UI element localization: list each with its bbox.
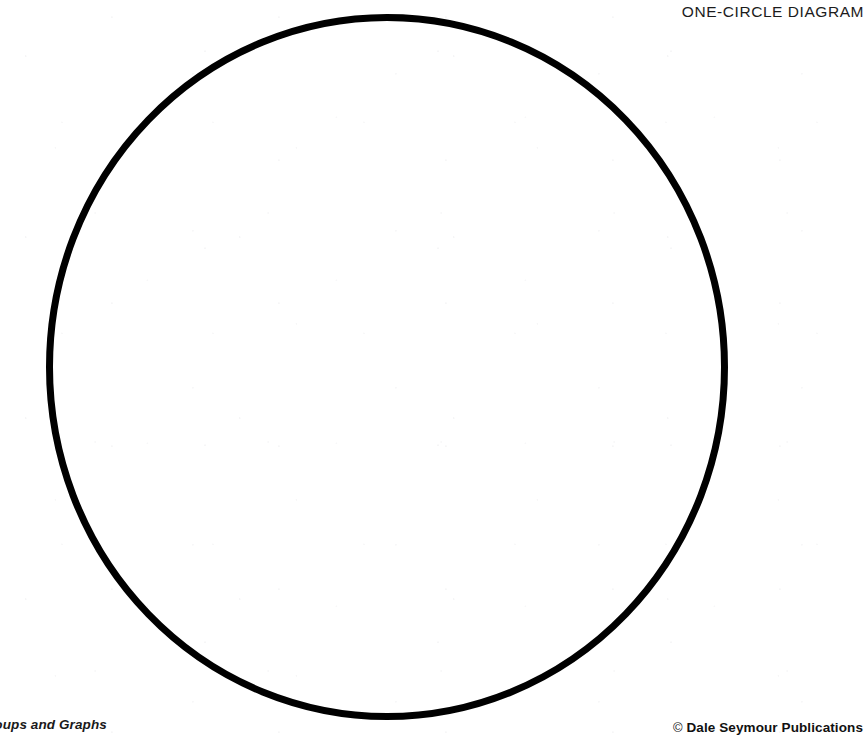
footer-left-label: roups and Graphs [0,717,107,732]
copyright-holder: Dale Seymour Publications [686,720,863,735]
footer-copyright: © Dale Seymour Publications [673,720,863,735]
circle-shape [50,18,725,717]
one-circle-diagram [0,0,866,743]
page-canvas: ONE-CIRCLE DIAGRAM roups and Graphs © Da… [0,0,866,743]
diagram-area [0,0,866,743]
copyright-icon: © [673,720,686,735]
